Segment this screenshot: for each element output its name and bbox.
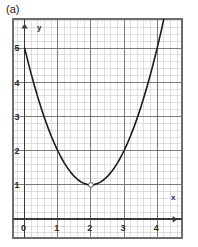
graph-plot: 0123412345 x y [0,0,198,247]
x-tick-label: 1 [54,223,59,233]
vertex-marker [88,183,93,188]
x-tick-label: 4 [154,223,159,233]
x-axis-label: x [171,193,176,202]
y-tick-label: 2 [15,146,20,156]
y-tick-label: 1 [15,180,20,190]
y-tick-label: 3 [15,112,20,122]
y-tick-label: 4 [15,78,20,88]
x-tick-label: 0 [21,223,26,233]
data-markers [88,183,93,188]
y-tick-label: 5 [15,43,20,53]
figure-panel: (a) 0123412345 x y [0,0,198,247]
x-tick-label: 3 [121,223,126,233]
x-tick-label: 2 [87,223,92,233]
y-axis-label: y [37,23,42,32]
